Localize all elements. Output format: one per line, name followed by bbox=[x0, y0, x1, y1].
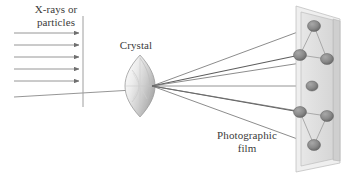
diffraction-spot-upper-right bbox=[321, 54, 334, 65]
incident-ray-main bbox=[14, 90, 133, 97]
diffraction-spot-upper-left bbox=[294, 50, 307, 61]
diffraction-spot-bottom bbox=[308, 140, 321, 151]
incident-beam-group bbox=[14, 16, 133, 107]
film-side-edge bbox=[333, 19, 340, 161]
crystal-label: Crystal bbox=[106, 39, 166, 52]
crystal-shape bbox=[125, 55, 155, 117]
diffracted-ray bbox=[152, 26, 314, 86]
diffraction-spot-center bbox=[306, 81, 318, 91]
diffracted-ray bbox=[152, 55, 300, 86]
photographic-film-label: Photographic film bbox=[204, 129, 290, 154]
source-label: X-rays or particles bbox=[16, 3, 96, 28]
x-ray-diffraction-figure: X-rays or particles Crystal Photographic… bbox=[0, 0, 346, 177]
photographic-film-panel bbox=[294, 6, 341, 172]
diffraction-spot-lower-right bbox=[321, 111, 334, 122]
diffraction-spot-lower-left bbox=[294, 107, 307, 118]
diffraction-spot-top bbox=[308, 21, 321, 32]
